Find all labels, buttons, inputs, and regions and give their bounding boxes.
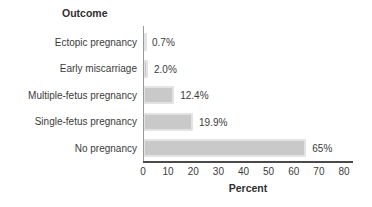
value-label: 19.9% [199,116,227,127]
value-label: 12.4% [180,90,208,101]
tick-label: 20 [188,166,199,177]
bar-rows: Ectopic pregnancy0.7%Early miscarriage2.… [0,29,372,162]
pregnancy-outcome-bar-chart: Outcome Ectopic pregnancy0.7%Early misca… [0,0,372,207]
bar-row: No pregnancy65% [0,135,372,162]
bar-track: 65% [143,139,353,157]
tick-label: 0 [140,166,146,177]
y-axis-title: Outcome [62,7,108,19]
bar [143,113,193,131]
x-axis-title: Percent [143,182,353,194]
tick-label: 10 [163,166,174,177]
value-label: 0.7% [152,37,175,48]
category-label: No pregnancy [0,143,143,154]
bar-row: Single-fetus pregnancy19.9% [0,109,372,136]
value-label: 2.0% [154,63,177,74]
tick-label: 50 [263,166,274,177]
bar [143,86,174,104]
bar-row: Early miscarriage2.0% [0,56,372,83]
bar-row: Multiple-fetus pregnancy12.4% [0,82,372,109]
tick-label: 80 [338,166,349,177]
bar-track: 19.9% [143,113,353,131]
bar [143,139,306,157]
tick-label: 70 [313,166,324,177]
category-label: Early miscarriage [0,63,143,74]
tick-label: 60 [288,166,299,177]
x-axis-ticks: 01020304050607080 [143,166,353,178]
category-label: Multiple-fetus pregnancy [0,90,143,101]
category-label: Single-fetus pregnancy [0,116,143,127]
bar-track: 12.4% [143,86,353,104]
bar-row: Ectopic pregnancy0.7% [0,29,372,56]
y-axis-line [143,26,144,162]
value-label: 65% [312,143,332,154]
bar-track: 2.0% [143,60,353,78]
category-label: Ectopic pregnancy [0,37,143,48]
bar-track: 0.7% [143,33,353,51]
x-axis-line [143,161,353,163]
tick-label: 30 [213,166,224,177]
tick-label: 40 [238,166,249,177]
